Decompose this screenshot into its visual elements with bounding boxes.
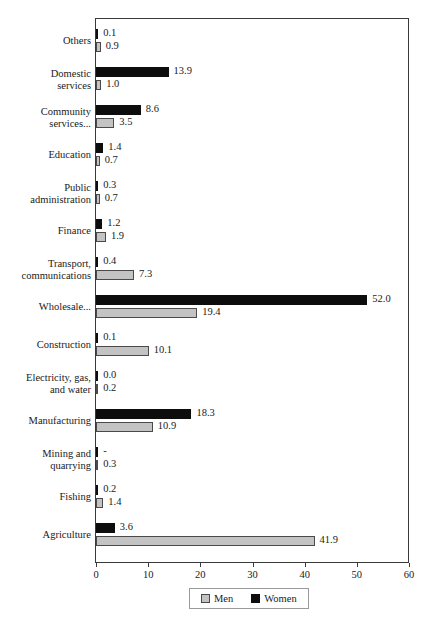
bar-group: 1.40.7 xyxy=(96,136,409,174)
legend-item: Women xyxy=(251,593,296,605)
bar-women xyxy=(96,333,98,343)
category-row: Fishing0.21.4 xyxy=(0,478,430,516)
bar-men xyxy=(96,498,103,508)
bar-group: 18.310.9 xyxy=(96,402,409,440)
category-row: Domestic services13.91.0 xyxy=(0,60,430,98)
bar-value-label: 0.4 xyxy=(103,256,116,266)
bar-men xyxy=(96,194,100,204)
bar-women xyxy=(96,181,98,191)
bar-value-label: 10.1 xyxy=(154,345,172,355)
category-label: Community services... xyxy=(0,106,91,129)
bar-value-label: 0.7 xyxy=(105,155,118,165)
category-label: Public administration xyxy=(0,182,91,205)
bar-men xyxy=(96,384,98,394)
category-row: Electricity, gas, and water0.00.2 xyxy=(0,364,430,402)
legend-swatch-men xyxy=(201,594,210,603)
x-tick-mark xyxy=(409,563,410,567)
legend-label: Men xyxy=(214,593,233,605)
bar-value-label: 18.3 xyxy=(196,408,214,418)
bar-women xyxy=(96,371,98,381)
bar-men xyxy=(96,346,149,356)
category-label: Fishing xyxy=(0,491,91,503)
bar-men xyxy=(96,232,106,242)
bar-value-label: 0.3 xyxy=(103,459,116,469)
bar-group: 52.019.4 xyxy=(96,288,409,326)
x-tick-label: 20 xyxy=(195,569,206,581)
category-label: Construction xyxy=(0,339,91,351)
bar-women xyxy=(96,29,98,39)
x-tick-label: 50 xyxy=(352,569,363,581)
x-tick-mark xyxy=(148,563,149,567)
bar-women xyxy=(96,523,115,533)
bar-group: 0.21.4 xyxy=(96,478,409,516)
category-label: Electricity, gas, and water xyxy=(0,372,91,395)
x-tick-label: 0 xyxy=(93,569,98,581)
category-row: Manufacturing18.310.9 xyxy=(0,402,430,440)
bar-group: 13.91.0 xyxy=(96,60,409,98)
bar-value-label: 10.9 xyxy=(158,421,176,431)
bar-value-label: 8.6 xyxy=(146,104,159,114)
bar-group: 0.30.7 xyxy=(96,174,409,212)
bar-men xyxy=(96,42,101,52)
bar-men xyxy=(96,270,134,280)
category-label: Mining and quarrying xyxy=(0,448,91,471)
x-tick-mark xyxy=(357,563,358,567)
bar-value-label: 0.1 xyxy=(103,28,116,38)
bar-women xyxy=(96,67,169,77)
category-label: Domestic services xyxy=(0,68,91,91)
category-label: Transport, communications xyxy=(0,258,91,281)
bar-group: 0.00.2 xyxy=(96,364,409,402)
bar-group: 0.10.9 xyxy=(96,22,409,60)
category-row: Public administration0.30.7 xyxy=(0,174,430,212)
bar-value-label: 0.0 xyxy=(103,370,116,380)
category-row: Education1.40.7 xyxy=(0,136,430,174)
category-row: Construction0.110.1 xyxy=(0,326,430,364)
category-row: Agriculture3.641.9 xyxy=(0,516,430,554)
bar-value-label: 3.5 xyxy=(119,117,132,127)
category-row: Community services...8.63.5 xyxy=(0,98,430,136)
bar-value-label: 0.9 xyxy=(106,41,119,51)
bar-value-label: 0.2 xyxy=(103,484,116,494)
category-row: Wholesale...52.019.4 xyxy=(0,288,430,326)
bar-men xyxy=(96,308,197,318)
bar-men xyxy=(96,460,98,470)
legend-item: Men xyxy=(201,593,233,605)
bar-value-label: 0.1 xyxy=(103,332,116,342)
bar-women xyxy=(96,105,141,115)
bar-value-label: 3.6 xyxy=(120,522,133,532)
bar-women xyxy=(96,295,367,305)
bar-value-label: 7.3 xyxy=(139,269,152,279)
bar-value-label: 0.7 xyxy=(105,193,118,203)
x-tick-label: 60 xyxy=(404,569,415,581)
bar-group: 0.47.3 xyxy=(96,250,409,288)
category-row: Mining and quarrying-0.3 xyxy=(0,440,430,478)
chart-legend: MenWomen xyxy=(189,588,309,609)
legend-label: Women xyxy=(264,593,296,605)
x-tick-mark xyxy=(253,563,254,567)
bar-men xyxy=(96,80,101,90)
bar-group: 8.63.5 xyxy=(96,98,409,136)
bar-value-label: 1.4 xyxy=(108,497,121,507)
category-label: Others xyxy=(0,35,91,47)
bar-value-label: 1.9 xyxy=(111,231,124,241)
bar-women xyxy=(96,485,98,495)
bar-value-label: 1.0 xyxy=(106,79,119,89)
bar-women xyxy=(96,257,98,267)
category-row: Transport, communications0.47.3 xyxy=(0,250,430,288)
bar-women xyxy=(96,447,98,457)
bar-women xyxy=(96,219,102,229)
bar-group: 0.110.1 xyxy=(96,326,409,364)
category-label: Manufacturing xyxy=(0,415,91,427)
bar-value-label: 52.0 xyxy=(372,294,390,304)
bar-value-label: 0.3 xyxy=(103,180,116,190)
category-row: Finance1.21.9 xyxy=(0,212,430,250)
x-tick-mark xyxy=(200,563,201,567)
horizontal-bar-chart: Others0.10.9Domestic services13.91.0Comm… xyxy=(0,0,430,626)
x-tick-mark xyxy=(96,563,97,567)
bar-value-label: 13.9 xyxy=(174,66,192,76)
category-row: Others0.10.9 xyxy=(0,22,430,60)
x-tick-label: 40 xyxy=(299,569,310,581)
bar-value-label: 41.9 xyxy=(320,535,338,545)
bar-group: -0.3 xyxy=(96,440,409,478)
bar-women xyxy=(96,409,191,419)
